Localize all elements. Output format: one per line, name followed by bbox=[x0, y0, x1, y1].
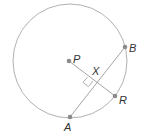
label-x: X bbox=[91, 65, 100, 77]
point-b bbox=[123, 45, 128, 50]
label-b: B bbox=[129, 42, 136, 54]
point-p bbox=[67, 59, 72, 64]
label-p: P bbox=[73, 53, 81, 65]
label-a: A bbox=[63, 121, 71, 133]
point-r bbox=[113, 94, 118, 99]
circle-diagram: P B R A X bbox=[0, 0, 143, 133]
label-r: R bbox=[119, 94, 127, 106]
point-a bbox=[68, 115, 73, 120]
